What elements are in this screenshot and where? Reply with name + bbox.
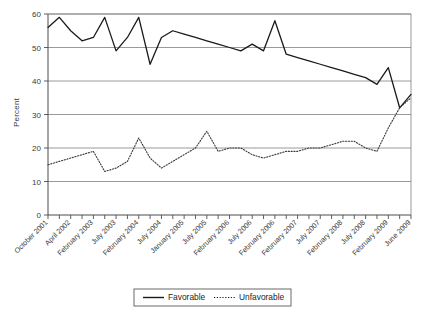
legend-label-favorable: Favorable bbox=[168, 292, 206, 302]
gridlines bbox=[48, 14, 411, 182]
chart-figure: Percent 0102030405060 October 2001April … bbox=[0, 0, 422, 319]
y-tick-label: 50 bbox=[32, 44, 41, 53]
y-tick-label: 60 bbox=[32, 10, 41, 19]
legend-label-unfavorable: Unfavorable bbox=[239, 292, 285, 302]
y-tick-label: 20 bbox=[32, 144, 41, 153]
series-line-favorable bbox=[48, 17, 411, 107]
x-axis-tick-labels: October 2001April 2002February 2003July … bbox=[12, 218, 412, 257]
chart-legend: FavorableUnfavorable bbox=[134, 289, 291, 306]
y-tick-label: 0 bbox=[37, 211, 42, 220]
x-axis-ticks bbox=[48, 215, 411, 219]
y-tick-label: 30 bbox=[32, 111, 41, 120]
x-tick-label: October 2001 bbox=[12, 218, 49, 255]
y-tick-label: 10 bbox=[32, 178, 41, 187]
y-axis-ticks: 0102030405060 bbox=[32, 10, 48, 220]
series-line-unfavorable bbox=[48, 98, 411, 172]
line-chart-plot: 0102030405060 October 2001April 2002Febr… bbox=[0, 0, 422, 319]
y-tick-label: 40 bbox=[32, 77, 41, 86]
